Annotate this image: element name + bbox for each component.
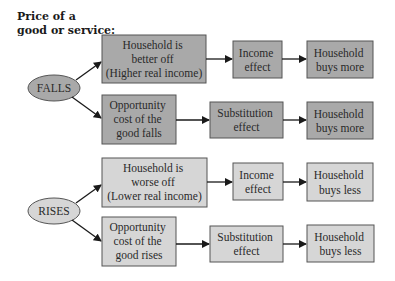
rises-group: RISES Household is worse off (Lower real… — [28, 158, 374, 266]
flow-diagram: FALLS Household is better off (Higher re… — [0, 0, 395, 281]
falls-income-result-line1: Household — [314, 47, 364, 59]
falls-income-effect-line2: effect — [245, 61, 272, 73]
falls-subst-cause-line2: cost of the — [114, 113, 162, 125]
falls-income-result-line2: buys more — [316, 61, 364, 74]
rises-subst-cause-line1: Opportunity — [109, 221, 165, 234]
rises-subst-result-line1: Household — [314, 231, 364, 243]
falls-subst-effect-line1: Substitution — [217, 107, 273, 119]
rises-income-result-line1: Household — [314, 169, 364, 181]
svg-text:Household buys more: Household buys more — [314, 108, 367, 135]
rises-subst-cause-line3: good rises — [116, 249, 163, 262]
arrow-falls-to-income-cause — [76, 62, 101, 80]
falls-income-cause-line1: Household is — [122, 39, 183, 51]
falls-subst-result-line2: buys more — [316, 122, 364, 135]
falls-group: FALLS Household is better off (Higher re… — [28, 35, 373, 144]
arrow-rises-to-income-cause — [76, 185, 101, 203]
rises-subst-effect-line1: Substitution — [217, 231, 273, 243]
rises-income-cause-line1: Household is — [123, 162, 184, 174]
arrow-rises-to-subst-cause — [72, 220, 101, 241]
svg-text:Opportunity cost of the: Opportunity cost of the good rises — [109, 221, 168, 262]
rises-label: RISES — [38, 205, 69, 217]
rises-income-cause-line3: (Lower real income) — [107, 190, 202, 203]
rises-income-result-line2: buys less — [319, 184, 361, 197]
falls-subst-cause-line3: good falls — [116, 127, 162, 140]
falls-subst-effect-line2: effect — [234, 121, 261, 133]
rises-income-cause-line2: worse off — [131, 176, 175, 188]
rises-income-effect-line2: effect — [245, 183, 272, 195]
rises-income-effect-line1: Income — [239, 169, 273, 181]
rises-subst-result-line2: buys less — [320, 245, 362, 258]
falls-income-effect-line1: Income — [239, 47, 273, 59]
falls-subst-cause-line1: Opportunity — [109, 99, 165, 112]
arrow-falls-to-subst-cause — [72, 97, 101, 118]
falls-income-cause-line2: better off — [131, 53, 173, 65]
svg-text:Household buys less: Household buys less — [314, 231, 367, 258]
rises-subst-effect-line2: effect — [234, 245, 261, 257]
svg-text:Household buys more: Household buys more — [314, 47, 367, 74]
falls-income-cause-line3: (Higher real income) — [106, 67, 203, 80]
falls-label: FALLS — [37, 82, 71, 94]
svg-text:Opportunity cost of the: Opportunity cost of the good falls — [109, 99, 168, 140]
falls-subst-result-line1: Household — [314, 108, 364, 120]
rises-subst-cause-line2: cost of the — [114, 235, 162, 247]
